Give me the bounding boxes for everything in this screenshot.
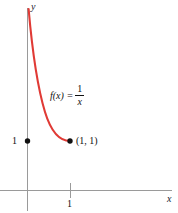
x-axis-tick-label-1: 1 — [67, 199, 72, 209]
function-curve — [29, 9, 70, 141]
y-axis-label: y — [31, 2, 35, 12]
point-1-1-marker — [67, 138, 72, 143]
y-axis-unit-point — [25, 138, 30, 143]
fraction-numerator: 1 — [76, 84, 83, 95]
function-equation-label: f(x) = 1 x — [50, 84, 84, 107]
fraction-denominator: x — [76, 96, 82, 107]
point-coordinate-label: (1, 1) — [76, 136, 98, 146]
x-axis-label: x — [167, 194, 171, 204]
fraction-one-over-x: 1 x — [75, 84, 84, 107]
y-axis-tick-label-1: 1 — [12, 136, 17, 146]
plot-canvas — [0, 0, 178, 213]
function-equation-text: f(x) = — [50, 91, 73, 101]
function-graph-figure: y x 1 1 (1, 1) f(x) = 1 x — [0, 0, 178, 213]
